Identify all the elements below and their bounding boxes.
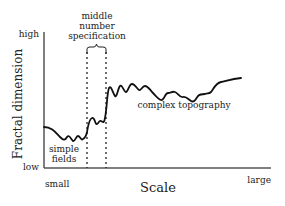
brace-icon <box>87 44 106 54</box>
middle-region-label-line3: specification <box>68 31 126 41</box>
middle-region-label-line2: number <box>79 21 115 31</box>
y-axis-low-label: low <box>23 162 39 172</box>
fractal-dimension-diagram: high low Fractal dimension small large S… <box>0 0 285 206</box>
y-axis-title: Fractal dimension <box>11 49 25 160</box>
x-axis-small-label: small <box>45 179 69 189</box>
x-axis-title: Scale <box>140 180 176 195</box>
simple-region-label-line2: fields <box>52 154 77 164</box>
middle-region-label-line1: middle <box>81 11 112 21</box>
complex-region-label: complex topography <box>137 100 231 110</box>
simple-region-label-line1: simple <box>49 144 79 154</box>
x-axis-large-label: large <box>247 175 271 185</box>
y-axis-high-label: high <box>19 29 39 39</box>
